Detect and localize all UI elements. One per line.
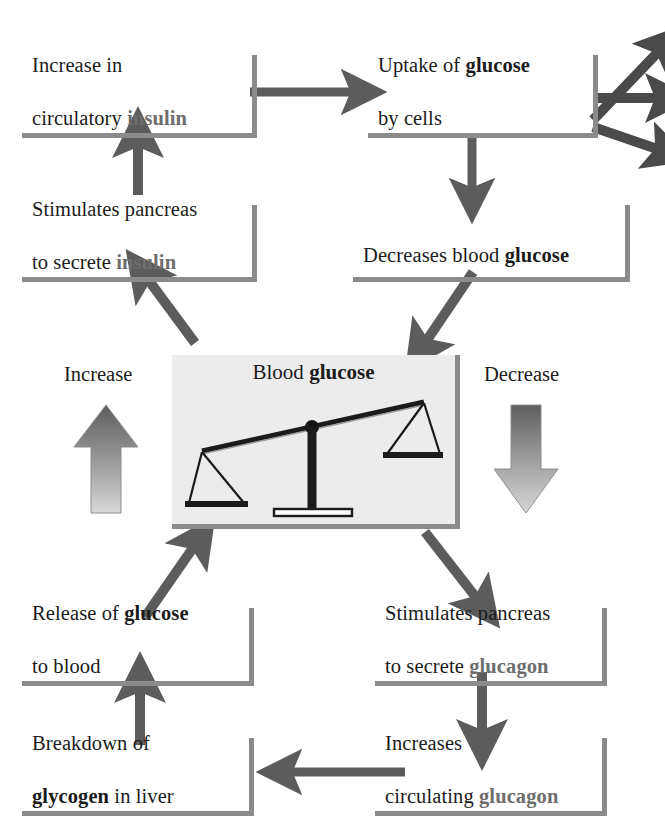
node-rule-bottom (353, 277, 630, 282)
node-increases-glucagon[interactable]: Increases circulating glucagon (375, 738, 607, 816)
blood-glucose-title: Blood glucose (172, 360, 455, 385)
node-release-glucose-label: Release of glucose to blood (32, 574, 189, 679)
node-release-glucose[interactable]: Release of glucose to blood (22, 608, 254, 686)
node-rule-bottom (22, 681, 254, 686)
increase-arrow-icon (72, 403, 140, 515)
node-rule-bottom (22, 133, 257, 138)
node-rule-right (252, 55, 257, 138)
node-rule-bottom (375, 681, 607, 686)
node-rule-right (602, 608, 607, 686)
node-increase-insulin-label: Increase in circulatory insulin (32, 26, 187, 131)
node-decreases-blood-glucose-label: Decreases blood glucose (363, 216, 569, 268)
node-stimulates-glucagon[interactable]: Stimulates pancreas to secrete glucagon (375, 608, 607, 686)
node-rule-right (593, 55, 598, 138)
node-rule-right (252, 205, 257, 282)
blood-glucose-panel[interactable]: Blood glucose (172, 355, 460, 529)
node-stimulates-glucagon-label: Stimulates pancreas to secrete glucagon (385, 574, 550, 679)
node-rule-right (249, 608, 254, 686)
node-uptake-glucose-label: Uptake of glucose by cells (378, 26, 530, 131)
node-breakdown-glycogen[interactable]: Breakdown of glycogen in liver (22, 738, 254, 816)
node-rule-bottom (22, 811, 254, 816)
decrease-label: Decrease (484, 363, 559, 386)
node-breakdown-glycogen-label: Breakdown of glycogen in liver (32, 704, 174, 809)
node-increases-glucagon-label: Increases circulating glucagon (385, 704, 558, 809)
arrow-decreases-to-panel (425, 272, 473, 343)
arrow-fan-to-tissues (593, 50, 660, 150)
node-increase-insulin[interactable]: Increase in circulatory insulin (22, 55, 257, 138)
node-rule-right (249, 738, 254, 816)
node-rule-right (602, 738, 607, 816)
balance-scale-icon (184, 391, 444, 521)
node-rule-bottom (22, 277, 257, 282)
increase-label: Increase (64, 363, 132, 386)
decrease-arrow-icon (492, 403, 560, 515)
diagram-canvas: Increase in circulatory insulin Uptake o… (0, 0, 665, 826)
node-decreases-blood-glucose[interactable]: Decreases blood glucose (353, 205, 630, 282)
arrow-panel-to-stimulates-insulin (147, 278, 195, 343)
node-stimulates-insulin-label: Stimulates pancreas to secrete insulin (32, 170, 197, 275)
node-uptake-glucose[interactable]: Uptake of glucose by cells (368, 55, 598, 138)
node-stimulates-insulin[interactable]: Stimulates pancreas to secrete insulin (22, 205, 257, 282)
node-rule-bottom (375, 811, 607, 816)
node-rule-bottom (368, 133, 598, 138)
node-rule-right (625, 205, 630, 282)
